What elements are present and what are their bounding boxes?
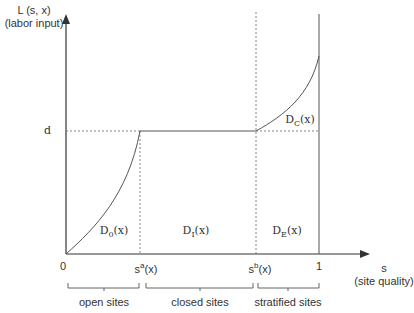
x-axis-label-line1: s: [354, 262, 413, 275]
region-label-di: DI(x): [183, 224, 210, 241]
bracket-label-stratified: stratified sites: [254, 296, 321, 309]
x-tick-one: 1: [316, 260, 322, 273]
bracket-open-sites: [68, 283, 139, 291]
region-label-de: DE(x): [272, 224, 301, 241]
bracket-label-open: open sites: [79, 296, 129, 309]
region-label-d0: D0(x): [100, 224, 129, 241]
x-axis-arrow-icon: [360, 250, 370, 258]
y-tick-d: d: [44, 124, 51, 137]
bracket-label-closed: closed sites: [171, 296, 228, 309]
x-axis-label: s (site quality): [354, 262, 413, 288]
region-label-dc: DC(x): [285, 113, 315, 130]
x-tick-zero: 0: [60, 260, 66, 273]
y-axis-label-line2: (labor input): [5, 17, 64, 30]
x-tick-sb: sb(x): [249, 259, 272, 276]
y-axis-label: L (s, x) (labor input): [5, 4, 64, 30]
bracket-stratified-sites: [258, 283, 319, 291]
y-axis-label-line1: L (s, x): [5, 4, 64, 17]
x-axis-label-line2: (site quality): [354, 275, 413, 288]
bracket-closed-sites: [146, 283, 253, 291]
x-tick-sa: sa(x): [135, 259, 158, 276]
